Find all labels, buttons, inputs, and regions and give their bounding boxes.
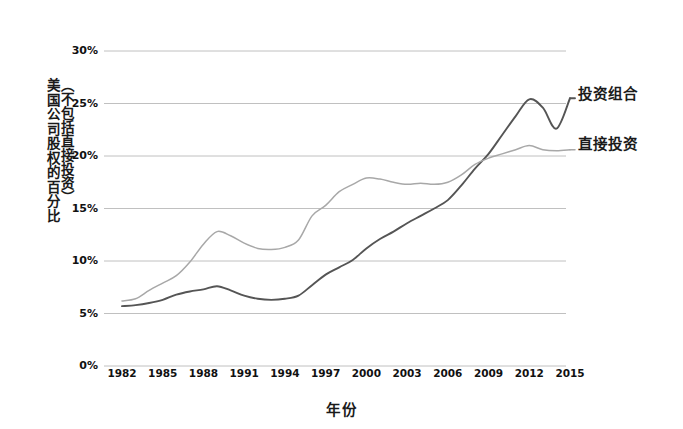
x-tick-label: 1985 (141, 368, 185, 379)
x-tick-label: 1988 (181, 368, 225, 379)
y-axis-label-main: 美国公司股权的百分比 (45, 78, 59, 223)
x-tick-label: 1982 (100, 368, 144, 379)
y-tick-label: 20% (60, 150, 98, 161)
chart-figure: （不包括直接投资） 美国公司股权的百分比 0%5%10%15%20%25%30%… (0, 0, 683, 429)
x-tick-label: 1994 (263, 368, 307, 379)
plot-area (0, 0, 683, 429)
x-tick-label: 1997 (304, 368, 348, 379)
x-tick-label: 2009 (467, 368, 511, 379)
y-tick-label: 30% (60, 45, 98, 56)
x-tick-label: 1991 (222, 368, 266, 379)
y-tick-label: 15% (60, 203, 98, 214)
y-tick-label: 25% (60, 98, 98, 109)
gridlines (104, 51, 566, 366)
y-tick-label: 10% (60, 255, 98, 266)
series-label-portfolio: 投资组合 (578, 82, 638, 103)
series-line-direct (122, 146, 570, 301)
x-axis-label: 年份 (0, 398, 683, 419)
y-tick-label: 5% (60, 308, 98, 319)
x-tick-label: 2006 (426, 368, 470, 379)
series-line-portfolio (122, 98, 570, 306)
data-lines (122, 98, 575, 306)
x-tick-label: 2003 (385, 368, 429, 379)
x-tick-label: 2015 (548, 368, 592, 379)
x-tick-label: 2000 (344, 368, 388, 379)
x-tick-label: 2012 (507, 368, 551, 379)
series-label-direct: 直接投资 (578, 132, 638, 153)
y-tick-label: 0% (60, 360, 98, 371)
